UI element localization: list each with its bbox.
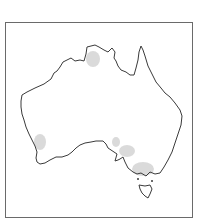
tasmania-coastline bbox=[139, 185, 152, 198]
mainland-coastline bbox=[21, 45, 182, 176]
island-marker bbox=[137, 178, 139, 180]
australia-map bbox=[0, 0, 206, 220]
highlight-top-end bbox=[86, 51, 100, 67]
island-marker bbox=[151, 180, 153, 182]
highlight-sa-gulf bbox=[112, 137, 120, 147]
highlight-sa-east bbox=[119, 145, 135, 157]
